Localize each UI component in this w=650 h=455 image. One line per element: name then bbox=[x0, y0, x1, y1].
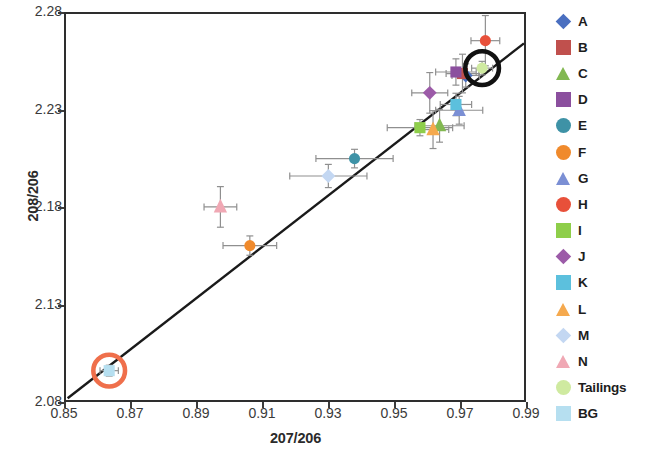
y-tick-label: 2.28 bbox=[8, 3, 62, 19]
legend-item-f[interactable]: F bbox=[556, 139, 650, 165]
data-point-J bbox=[423, 86, 437, 100]
legend-marker-shape bbox=[556, 275, 571, 290]
legend-item-i[interactable]: I bbox=[556, 218, 650, 244]
data-point-Tailings bbox=[477, 63, 488, 74]
legend-marker-circle-icon bbox=[556, 197, 571, 212]
y-tick-mark bbox=[58, 305, 64, 307]
legend-item-tailings[interactable]: Tailings bbox=[556, 375, 650, 401]
data-layer bbox=[66, 14, 524, 401]
data-point-H bbox=[480, 35, 491, 46]
legend-marker-shape bbox=[556, 118, 571, 133]
legend-label: H bbox=[578, 197, 588, 212]
legend-marker-shape bbox=[556, 67, 570, 80]
legend-item-c[interactable]: C bbox=[556, 60, 650, 86]
y-tick-mark bbox=[58, 207, 64, 209]
x-tick-mark bbox=[394, 402, 396, 408]
data-point-F bbox=[244, 240, 255, 251]
legend-item-g[interactable]: G bbox=[556, 165, 650, 191]
data-point-M bbox=[321, 169, 335, 183]
legend-marker-shape bbox=[556, 13, 571, 28]
legend-label: D bbox=[578, 92, 588, 107]
legend-marker-triangle-icon bbox=[556, 171, 571, 186]
legend-marker-triangle-icon bbox=[556, 354, 571, 369]
legend-item-b[interactable]: B bbox=[556, 34, 650, 60]
legend-marker-triangle-icon bbox=[556, 66, 571, 81]
legend-marker-shape bbox=[556, 145, 571, 160]
data-point-N bbox=[214, 199, 227, 213]
legend-marker-square-icon bbox=[556, 40, 571, 55]
legend-label: I bbox=[578, 223, 582, 238]
legend-item-a[interactable]: A bbox=[556, 8, 650, 34]
legend-label: N bbox=[578, 354, 588, 369]
legend-item-l[interactable]: L bbox=[556, 296, 650, 322]
x-tick-mark bbox=[328, 402, 330, 408]
legend-label: J bbox=[578, 249, 585, 264]
data-point-I bbox=[414, 122, 425, 133]
legend-marker-shape bbox=[556, 92, 571, 107]
legend-marker-circle-icon bbox=[556, 118, 571, 133]
y-tick-mark bbox=[58, 12, 64, 14]
y-axis-title: 208/206 bbox=[25, 141, 41, 251]
legend-marker-shape bbox=[556, 355, 570, 368]
legend-marker-circle-icon bbox=[556, 145, 571, 160]
legend-label: L bbox=[578, 302, 586, 317]
legend-marker-shape bbox=[556, 380, 571, 395]
legend-label: E bbox=[578, 118, 587, 133]
legend-marker-square-icon bbox=[556, 275, 571, 290]
y-tick-mark bbox=[58, 110, 64, 112]
legend-marker-triangle-icon bbox=[556, 302, 571, 317]
legend-marker-shape bbox=[556, 197, 571, 212]
legend-label: BG bbox=[578, 406, 598, 421]
x-tick-mark bbox=[262, 402, 264, 408]
x-tick-mark bbox=[130, 402, 132, 408]
chart-root: 2.082.132.182.232.28 208/206 207/206 ABC… bbox=[0, 0, 650, 455]
legend-item-k[interactable]: K bbox=[556, 270, 650, 296]
x-tick-mark bbox=[196, 402, 198, 408]
legend-marker-square-icon bbox=[556, 223, 571, 238]
legend-marker-square-icon bbox=[556, 406, 571, 421]
data-point-K bbox=[450, 99, 461, 110]
data-point-D bbox=[450, 66, 461, 77]
legend-item-n[interactable]: N bbox=[556, 348, 650, 374]
legend: ABCDEFGHIJKLMNTailingsBG bbox=[556, 8, 650, 427]
legend-label: A bbox=[578, 14, 588, 29]
legend-marker-diamond-icon bbox=[556, 328, 571, 343]
x-tick-mark bbox=[64, 402, 66, 408]
y-tick-label: 2.23 bbox=[8, 101, 62, 117]
x-tick-mark bbox=[526, 402, 528, 408]
legend-label: K bbox=[578, 275, 588, 290]
legend-marker-shape bbox=[556, 249, 571, 264]
x-axis-title: 207/206 bbox=[270, 430, 321, 446]
legend-marker-shape bbox=[556, 303, 570, 316]
legend-label: M bbox=[578, 328, 589, 343]
legend-item-j[interactable]: J bbox=[556, 244, 650, 270]
legend-label: Tailings bbox=[578, 380, 626, 395]
legend-item-m[interactable]: M bbox=[556, 322, 650, 348]
legend-marker-diamond-icon bbox=[556, 14, 571, 29]
plot-area bbox=[64, 12, 526, 402]
legend-item-bg[interactable]: BG bbox=[556, 401, 650, 427]
legend-marker-circle-icon bbox=[556, 380, 571, 395]
data-point-E bbox=[349, 153, 360, 164]
legend-marker-shape bbox=[556, 406, 571, 421]
x-tick-mark bbox=[460, 402, 462, 408]
y-tick-label: 2.13 bbox=[8, 296, 62, 312]
legend-marker-shape bbox=[556, 328, 571, 343]
legend-label: B bbox=[578, 40, 588, 55]
legend-marker-shape bbox=[556, 172, 570, 185]
legend-item-d[interactable]: D bbox=[556, 87, 650, 113]
legend-item-h[interactable]: H bbox=[556, 191, 650, 217]
legend-marker-shape bbox=[556, 223, 571, 238]
data-point-BG bbox=[104, 365, 115, 376]
legend-label: F bbox=[578, 145, 586, 160]
legend-marker-square-icon bbox=[556, 92, 571, 107]
legend-label: G bbox=[578, 171, 588, 186]
legend-marker-shape bbox=[556, 40, 571, 55]
legend-label: C bbox=[578, 66, 588, 81]
legend-item-e[interactable]: E bbox=[556, 113, 650, 139]
legend-marker-diamond-icon bbox=[556, 249, 571, 264]
